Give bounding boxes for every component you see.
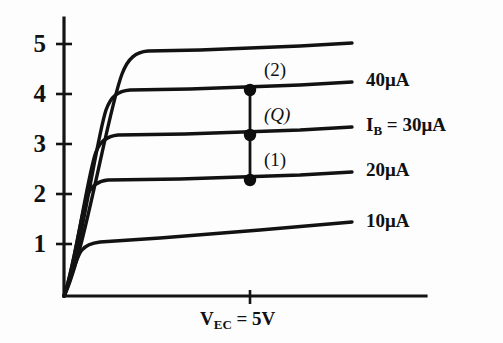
characteristic-curves-plot [0, 0, 503, 343]
curve-label-40ua: 40μA [366, 70, 410, 89]
vec-value: = 5V [232, 308, 276, 329]
y-tick-label-3: 3 [22, 131, 46, 156]
y-tick-label-4: 4 [22, 81, 46, 106]
curve-label-30ua-text: 30μA [402, 114, 446, 135]
ib-subscript: B [373, 123, 382, 138]
x-axis-caption: VEC = 5V [200, 309, 275, 331]
operating-point-2 [244, 84, 256, 96]
operating-point-q [244, 129, 256, 141]
curve-label-10ua: 10μA [366, 211, 410, 230]
vec-subscript: EC [214, 317, 232, 332]
point-label-1: (1) [264, 150, 286, 169]
curve-50ua [64, 43, 352, 296]
curve-label-40ua-text: 40μA [366, 69, 410, 90]
curve-label-20ua-text: 20μA [366, 159, 410, 180]
curve-30ua [64, 127, 352, 296]
curve-40ua [64, 82, 352, 296]
point-label-2: (2) [264, 60, 286, 79]
y-tick-label-1: 1 [22, 231, 46, 256]
vec-symbol: V [200, 308, 214, 329]
curve-label-10ua-text: 10μA [366, 210, 410, 231]
y-tick-label-2: 2 [22, 181, 46, 206]
point-label-q: (Q) [264, 105, 290, 124]
curve-label-20ua: 20μA [366, 160, 410, 179]
curve-label-30ua: IB = 30μA [366, 115, 446, 137]
y-tick-label-5: 5 [22, 31, 46, 56]
curve-10ua [64, 222, 352, 296]
figure-container: 5 4 3 2 1 (2) (Q) (1) 40μA IB = 30μA 20μ… [0, 0, 503, 343]
operating-point-1 [244, 174, 256, 186]
ib-equals: = [382, 114, 402, 135]
